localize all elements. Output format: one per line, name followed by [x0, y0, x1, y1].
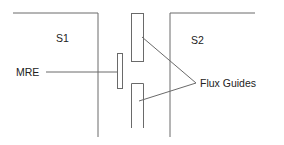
flux-guides-label: Flux Guides: [200, 77, 256, 89]
shield-s2-outline: [170, 13, 255, 137]
s1-label: S1: [56, 32, 69, 44]
flux-guide-leader-upper: [142, 37, 196, 83]
upper-flux-guide: [132, 14, 144, 62]
mre-label: MRE: [16, 66, 39, 78]
mre-element: [118, 54, 123, 89]
s2-label: S2: [191, 34, 204, 46]
sensor-diagram: S1 S2 MRE Flux Guides: [0, 0, 284, 145]
lower-flux-guide: [132, 84, 144, 129]
flux-guide-leader-lower: [139, 83, 196, 101]
shield-s2: S2: [170, 13, 255, 137]
